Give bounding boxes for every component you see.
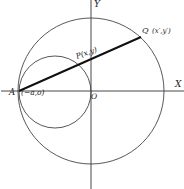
point-a-coords: (−a,o) [21, 88, 45, 97]
diagram-canvas: Y X A (−a,o) O P(x,y) Q (x′,y′) [0, 0, 184, 189]
segment-aq [19, 37, 141, 91]
point-p-label: P(x,y) [74, 45, 99, 61]
point-q-label: Q [142, 26, 149, 35]
point-a-label: A [8, 87, 15, 97]
x-axis-label: X [174, 79, 182, 89]
point-q-coords: (x′,y′) [152, 27, 171, 35]
point-o-label: O [91, 92, 97, 101]
y-axis-label: Y [94, 0, 101, 9]
